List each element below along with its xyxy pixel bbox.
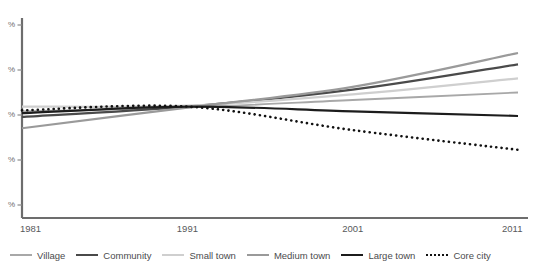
legend-swatch-icon [341,254,363,256]
legend-item-label: Village [37,250,65,261]
y-axis-tick-label: % [0,200,15,209]
legend-item-label: Medium town [274,250,331,261]
y-axis-tick-label: % [0,155,15,164]
series-line-small-town [22,78,518,106]
legend-item-label: Community [103,250,151,261]
x-axis-tick-label: 2011 [502,223,522,234]
legend-item-community[interactable]: Community [76,250,151,261]
legend-item-small-town[interactable]: Small town [162,250,235,261]
chart-series-layer [22,53,518,150]
legend-item-label: Large town [368,250,415,261]
legend-swatch-icon [247,254,269,256]
y-axis-tick-label: % [0,110,15,119]
legend-item-large-town[interactable]: Large town [341,250,415,261]
legend-item-label: Small town [189,250,235,261]
line-chart: %%%%% 1981199120012011 VillageCommunityS… [0,0,538,273]
x-axis-tick-label: 1991 [177,223,198,234]
legend-swatch-icon [162,254,184,256]
legend-swatch-icon [10,254,32,256]
legend-item-label: Core city [453,250,490,261]
legend-item-village[interactable]: Village [10,250,65,261]
legend-swatch-icon [76,254,98,256]
legend-item-medium-town[interactable]: Medium town [247,250,331,261]
legend-swatch-icon [426,254,448,256]
x-axis-tick-label: 1981 [20,223,41,234]
chart-legend: VillageCommunitySmall townMedium townLar… [0,244,538,266]
y-axis-tick-label: % [0,65,15,74]
y-axis-tick-label: % [0,20,15,29]
chart-plot-area [0,0,538,273]
legend-item-core-city[interactable]: Core city [426,250,490,261]
x-axis-tick-label: 2001 [342,223,363,234]
